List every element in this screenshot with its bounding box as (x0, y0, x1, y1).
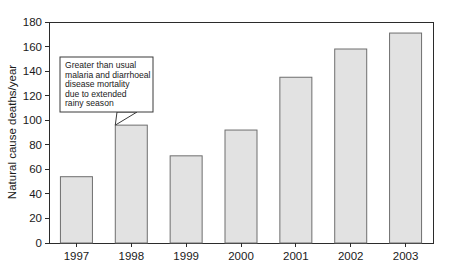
x-tick-label: 1998 (118, 250, 144, 262)
x-tick-label: 2003 (393, 250, 419, 262)
bar-1999 (170, 156, 202, 243)
y-tick-label: 120 (23, 90, 42, 102)
callout-line: due to extended (65, 89, 127, 99)
bar-1998 (115, 125, 147, 243)
y-tick-label: 180 (23, 16, 42, 28)
x-tick-label: 2000 (228, 250, 254, 262)
y-tick-label: 160 (23, 41, 42, 53)
y-tick-label: 40 (29, 188, 42, 200)
x-tick-label: 1997 (64, 250, 90, 262)
bar-2002 (335, 49, 367, 243)
x-tick-label: 2001 (283, 250, 309, 262)
bar-2000 (225, 130, 257, 243)
bar-2003 (390, 33, 422, 243)
x-tick-label: 2002 (338, 250, 364, 262)
callout-line: rainy season (65, 98, 114, 108)
y-tick-label: 20 (29, 212, 42, 224)
y-tick-label: 140 (23, 65, 42, 77)
y-tick-label: 100 (23, 114, 42, 126)
bar-1997 (60, 177, 92, 243)
bar-chart: 020406080100120140160180 Natural cause d… (0, 0, 452, 276)
y-axis: 020406080100120140160180 (23, 16, 49, 249)
callout-line: malaria and diarrhoeal (65, 70, 151, 80)
annotation-callout: Greater than usualmalaria and diarrhoeal… (60, 57, 153, 125)
callout-tail-icon (115, 112, 137, 125)
callout-line: disease mortality (65, 79, 130, 89)
chart-canvas: 020406080100120140160180 Natural cause d… (0, 0, 452, 276)
callout-line: Greater than usual (65, 60, 136, 70)
y-tick-label: 0 (36, 237, 42, 249)
x-axis: 1997199819992000200120022003 (64, 243, 419, 262)
y-tick-label: 60 (29, 163, 42, 175)
bar-2001 (280, 77, 312, 243)
y-axis-title: Natural cause deaths/year (6, 65, 18, 199)
x-tick-label: 1999 (173, 250, 199, 262)
y-tick-label: 80 (29, 139, 42, 151)
